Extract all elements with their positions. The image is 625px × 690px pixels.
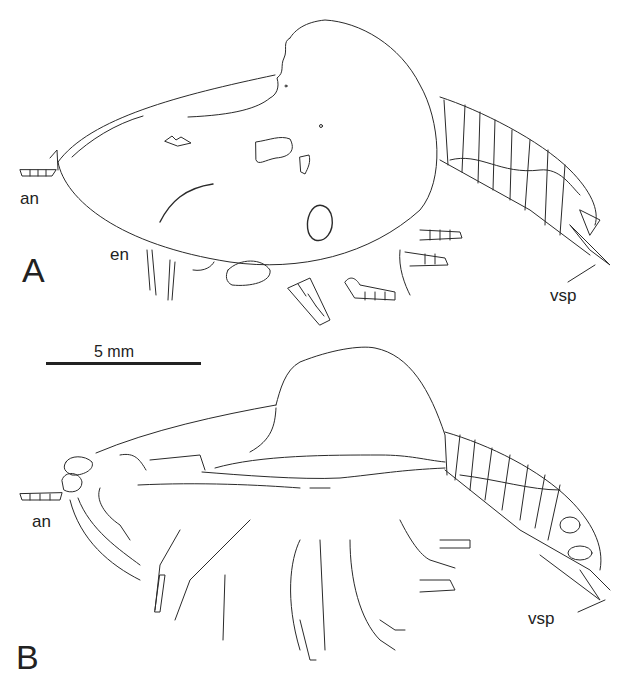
panel-b-specimen — [20, 347, 610, 660]
ventral-spine-label-b: vsp — [528, 610, 554, 627]
endopod-label-a: en — [110, 246, 129, 263]
ventral-spine-label-a: vsp — [550, 287, 576, 304]
panel-label-a: A — [22, 253, 45, 287]
panel-label-b: B — [16, 640, 39, 674]
antenna-label-b: an — [32, 513, 51, 530]
scale-bar — [46, 362, 201, 365]
panel-a-specimen — [20, 20, 610, 325]
scale-bar-label: 5 mm — [94, 343, 134, 361]
antenna-label-a: an — [20, 190, 39, 207]
